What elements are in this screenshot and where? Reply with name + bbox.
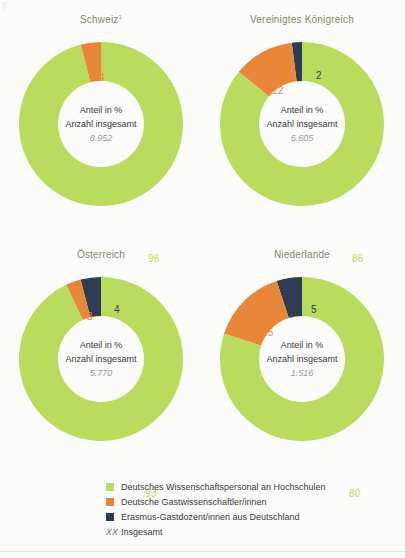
donut-value-label-erasmus: 5 — [311, 304, 317, 315]
legend-label: Erasmus-Gastdozent/innen aus Deutschland — [121, 512, 300, 522]
donut-svg — [218, 40, 386, 208]
donut-graphic: Anteil in % Anzahl insgesamt 1.516 51580 — [218, 275, 386, 443]
donut-slices-3 — [220, 277, 384, 441]
chart-title-text: Österreich — [77, 249, 125, 260]
donut-graphic: Anteil in % Anzahl insgesamt 6.605 21286 — [218, 40, 386, 208]
donut-chart-schweiz: Schweiz1 Anteil in % Anzahl insgesamt 8.… — [0, 6, 202, 241]
donut-slice-gast — [224, 281, 289, 346]
donut-slices-1 — [220, 42, 384, 206]
donut-svg — [17, 40, 185, 208]
chart-title-text: Niederlande — [274, 249, 330, 260]
donut-graphic: Anteil in % Anzahl insgesamt 5.770 4393 — [17, 275, 185, 443]
donut-value-label-gast: 15 — [262, 327, 274, 338]
donut-slices-2 — [19, 277, 183, 441]
chart-title: Vereinigtes Königreich — [201, 14, 403, 25]
chart-title: Niederlande — [201, 249, 403, 260]
chart-legend: Deutsches Wissenschaftspersonal an Hochs… — [106, 480, 396, 540]
footer-divider — [0, 551, 405, 552]
chart-page: Schweiz1 Anteil in % Anzahl insgesamt 8.… — [0, 0, 405, 558]
legend-label: Deutsche Gastwissenschaftler/innen — [121, 497, 267, 507]
legend-swatch-green — [106, 483, 114, 491]
donut-value-label-gast: 12 — [272, 85, 284, 96]
legend-label: Insgesamt — [121, 527, 163, 537]
donut-value-label-gast: 4 — [99, 72, 105, 83]
legend-swatch-navy — [106, 513, 114, 521]
donut-svg — [17, 275, 185, 443]
legend-item-insgesamt: XX Insgesamt — [106, 525, 396, 539]
chart-title: Österreich — [0, 249, 202, 260]
donut-value-label-gast: 3 — [87, 311, 93, 322]
legend-item-gastwissenschaftler: Deutsche Gastwissenschaftler/innen — [106, 495, 396, 509]
chart-title: Schweiz1 — [0, 14, 202, 25]
legend-label: Deutsches Wissenschaftspersonal an Hochs… — [121, 482, 326, 492]
donut-chart-oesterreich: Österreich Anteil in % Anzahl insgesamt … — [0, 241, 202, 476]
legend-item-erasmus: Erasmus-Gastdozent/innen aus Deutschland — [106, 510, 396, 524]
donut-chart-grid: Schweiz1 Anteil in % Anzahl insgesamt 8.… — [0, 0, 405, 470]
donut-svg — [218, 275, 386, 443]
donut-chart-niederlande: Niederlande Anteil in % Anzahl insgesamt… — [201, 241, 403, 476]
legend-swatch-orange — [106, 498, 114, 506]
chart-title-footnote-marker: 1 — [119, 14, 123, 20]
donut-chart-vereinigtes-koenigreich: Vereinigtes Königreich Anteil in % Anzah… — [201, 6, 403, 241]
donut-slice-personal — [19, 277, 183, 441]
legend-marker-xx: XX — [106, 527, 114, 537]
donut-graphic: Anteil in % Anzahl insgesamt 8.952 496 — [17, 40, 185, 208]
legend-item-personal: Deutsches Wissenschaftspersonal an Hochs… — [106, 480, 396, 494]
donut-slices-0 — [19, 42, 183, 206]
chart-title-text: Schweiz — [80, 14, 119, 25]
donut-slice-personal — [19, 42, 183, 206]
donut-value-label-erasmus: 4 — [114, 304, 120, 315]
donut-value-label-erasmus: 2 — [316, 70, 322, 81]
chart-title-text: Vereinigtes Königreich — [250, 14, 354, 25]
